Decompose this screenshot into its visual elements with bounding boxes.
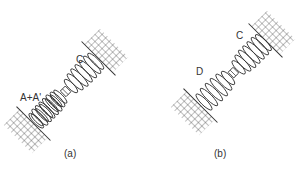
panel-a [1, 26, 131, 156]
panel-b [168, 8, 298, 138]
panel-b-assembly [168, 8, 298, 138]
caption-panel-b: (b) [214, 149, 226, 159]
connector-b [228, 67, 239, 78]
label-c-panel-a: C [76, 55, 83, 65]
label-d: D [196, 67, 203, 77]
diagram-canvas [0, 0, 308, 173]
caption-panel-a: (a) [64, 149, 76, 159]
label-c-panel-b: C [236, 31, 243, 41]
label-a-plus-a-prime: A+A' [20, 93, 41, 103]
panel-a-assembly [1, 26, 131, 156]
